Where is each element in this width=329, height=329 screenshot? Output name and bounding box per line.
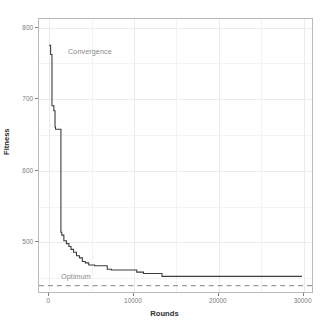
tick-label-x-30000: 30000	[294, 297, 312, 304]
tick-label-x-0: 0	[46, 297, 50, 304]
annotation-optimum: Optimum	[61, 272, 91, 281]
tick-mark-y-700	[35, 98, 38, 99]
tick-label-y-800: 800	[22, 23, 33, 30]
convergence-chart: Convergence Optimum 800 700 600 500 0 10…	[0, 0, 329, 329]
tick-mark-x-10000	[133, 293, 134, 296]
tick-mark-x-30000	[303, 293, 304, 296]
axis-title-y: Fitness	[2, 128, 11, 155]
plot-panel: Convergence Optimum	[38, 18, 313, 293]
tick-mark-x-0	[48, 293, 49, 296]
tick-mark-y-800	[35, 27, 38, 28]
tick-label-x-20000: 20000	[209, 297, 227, 304]
tick-label-y-600: 600	[22, 166, 33, 173]
fitness-convergence-curve	[49, 45, 302, 276]
tick-label-y-500: 500	[22, 238, 33, 245]
annotation-convergence: Convergence	[68, 47, 112, 56]
tick-label-y-700: 700	[22, 95, 33, 102]
tick-mark-x-20000	[218, 293, 219, 296]
series-layer	[39, 19, 312, 292]
tick-mark-y-600	[35, 170, 38, 171]
tick-label-x-10000: 10000	[124, 297, 142, 304]
tick-mark-y-500	[35, 241, 38, 242]
axis-title-x: Rounds	[0, 309, 329, 318]
